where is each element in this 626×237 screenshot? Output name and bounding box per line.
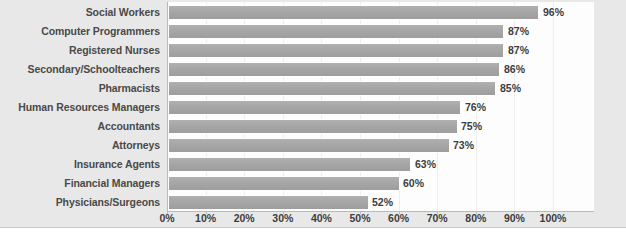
category-label: Social Workers <box>0 3 160 22</box>
bar <box>168 24 504 39</box>
bar <box>168 176 400 191</box>
category-label: Financial Managers <box>0 174 160 193</box>
x-tick-label: 70% <box>427 212 448 224</box>
bar <box>168 195 369 210</box>
category-label: Secondary/Schoolteachers <box>0 60 160 79</box>
bar-value-label: 85% <box>500 79 521 98</box>
bar <box>168 157 411 172</box>
bar-rows: Social Workers 96% Computer Programmers … <box>0 3 626 212</box>
bar-value-label: 52% <box>372 193 393 212</box>
category-label: Insurance Agents <box>0 155 160 174</box>
bar-row: Attorneys 73% <box>0 136 626 155</box>
bar <box>168 119 458 134</box>
bar <box>168 43 504 58</box>
x-tick-label: 20% <box>234 212 255 224</box>
bar-row: Registered Nurses 87% <box>0 41 626 60</box>
category-label: Attorneys <box>0 136 160 155</box>
bar-track: 76% <box>168 98 554 117</box>
bar-row: Accountants 75% <box>0 117 626 136</box>
bar-value-label: 76% <box>465 98 486 117</box>
x-tick-label: 0% <box>159 212 174 224</box>
x-tick-label: 30% <box>272 212 293 224</box>
bar-track: 60% <box>168 174 554 193</box>
bar <box>168 138 450 153</box>
bar-value-label: 60% <box>403 174 424 193</box>
bar-row: Physicians/Surgeons 52% <box>0 193 626 212</box>
x-tick-label: 10% <box>195 212 216 224</box>
category-label: Human Resources Managers <box>0 98 160 117</box>
category-label: Computer Programmers <box>0 22 160 41</box>
bar-row: Human Resources Managers 76% <box>0 98 626 117</box>
x-tick-label: 100% <box>540 212 567 224</box>
bar-track: 75% <box>168 117 554 136</box>
x-tick-label: 90% <box>504 212 525 224</box>
category-label: Registered Nurses <box>0 41 160 60</box>
bar-track: 63% <box>168 155 554 174</box>
bar-row: Secondary/Schoolteachers 86% <box>0 60 626 79</box>
bar <box>168 81 496 96</box>
bar-value-label: 86% <box>504 60 525 79</box>
bar-value-label: 73% <box>453 136 474 155</box>
bar-track: 87% <box>168 22 554 41</box>
bar <box>168 62 500 77</box>
category-label: Pharmacists <box>0 79 160 98</box>
bar-value-label: 63% <box>415 155 436 174</box>
bar-value-label: 87% <box>508 41 529 60</box>
bar-track: 96% <box>168 3 554 22</box>
bar-value-label: 96% <box>543 3 564 22</box>
x-tick-label: 80% <box>465 212 486 224</box>
category-label: Physicians/Surgeons <box>0 193 160 212</box>
x-tick-label: 60% <box>388 212 409 224</box>
bar-value-label: 87% <box>508 22 529 41</box>
bar-track: 87% <box>168 41 554 60</box>
bar-track: 73% <box>168 136 554 155</box>
bar-chart: Social Workers 96% Computer Programmers … <box>0 0 626 237</box>
bar-row: Computer Programmers 87% <box>0 22 626 41</box>
bar-row: Social Workers 96% <box>0 3 626 22</box>
bar-track: 85% <box>168 79 554 98</box>
bar <box>168 5 539 20</box>
bar-track: 52% <box>168 193 554 212</box>
x-tick-label: 40% <box>311 212 332 224</box>
bar <box>168 100 461 115</box>
bar-row: Pharmacists 85% <box>0 79 626 98</box>
bar-value-label: 75% <box>461 117 482 136</box>
x-tick-label: 50% <box>349 212 370 224</box>
category-label: Accountants <box>0 117 160 136</box>
bar-track: 86% <box>168 60 554 79</box>
bar-row: Insurance Agents 63% <box>0 155 626 174</box>
x-axis-tick-labels: 0% 10% 20% 30% 40% 50% 60% 70% 80% 90% 1… <box>0 212 626 228</box>
bar-row: Financial Managers 60% <box>0 174 626 193</box>
